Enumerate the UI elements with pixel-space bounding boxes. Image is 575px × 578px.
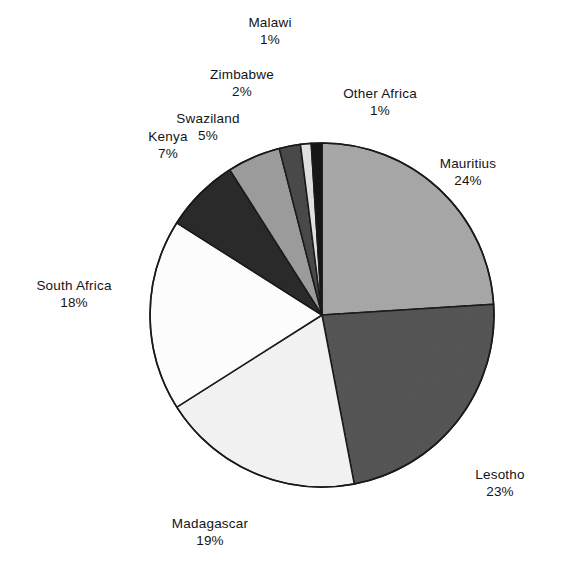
slice-label-zimbabwe: Zimbabwe 2%: [210, 66, 274, 100]
slice-label-kenya: Kenya 7%: [148, 128, 187, 162]
slice-label-lesotho: Lesotho 23%: [475, 466, 524, 500]
slice-label-mauritius: Mauritius 24%: [440, 155, 497, 189]
slice-label-south-africa-pct: 18%: [36, 294, 111, 311]
slice-label-zimbabwe-name: Zimbabwe: [210, 66, 274, 83]
slice-label-malawi-name: Malawi: [248, 14, 291, 31]
slice-label-madagascar: Madagascar 19%: [172, 515, 248, 549]
slice-label-kenya-pct: 7%: [148, 145, 187, 162]
slice-label-zimbabwe-pct: 2%: [210, 83, 274, 100]
slice-label-other-africa-pct: 1%: [343, 102, 417, 119]
slice-label-south-africa: South Africa 18%: [36, 277, 111, 311]
slice-label-other-africa-name: Other Africa: [343, 85, 417, 102]
slice-label-south-africa-name: South Africa: [36, 277, 111, 294]
slice-label-swaziland-name: Swaziland: [176, 110, 239, 127]
slice-label-madagascar-name: Madagascar: [172, 515, 248, 532]
pie-slice-group: [150, 143, 494, 487]
slice-label-mauritius-name: Mauritius: [440, 155, 497, 172]
slice-label-madagascar-pct: 19%: [172, 532, 248, 549]
slice-label-mauritius-pct: 24%: [440, 172, 497, 189]
slice-label-kenya-name: Kenya: [148, 128, 187, 145]
slice-label-lesotho-name: Lesotho: [475, 466, 524, 483]
slice-label-lesotho-pct: 23%: [475, 483, 524, 500]
slice-label-malawi: Malawi 1%: [248, 14, 291, 48]
slice-label-malawi-pct: 1%: [248, 31, 291, 48]
pie-chart-figure: Malawi 1% Zimbabwe 2% Other Africa 1% Sw…: [0, 0, 575, 578]
slice-label-other-africa: Other Africa 1%: [343, 85, 417, 119]
